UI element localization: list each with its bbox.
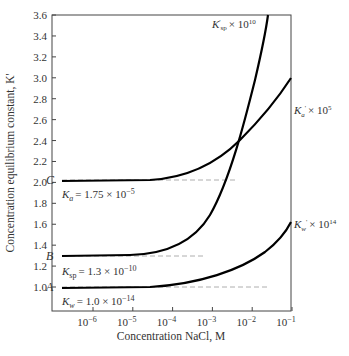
y-tick-label: 2.4	[33, 135, 47, 147]
label-c: C	[46, 173, 55, 187]
ksp-equation: Ksp= 1.3 × 10−10	[61, 264, 136, 280]
y-tick-label: 3.6	[33, 9, 47, 21]
y-tick-label: 3.0	[33, 72, 47, 84]
ka-curve-label: Ka'× 105	[293, 104, 332, 119]
y-tick-label: 2.2	[33, 155, 47, 167]
y-tick-label: 1.2	[33, 260, 47, 272]
x-tick-label: 10−1	[276, 315, 296, 328]
y-tick-label: 3.2	[33, 51, 47, 63]
ka-equation: Ka= 1.75 × 10−5	[61, 187, 135, 203]
x-axis-label: Concentration NaCl, M	[117, 330, 225, 343]
y-tick-label: 3.4	[33, 30, 47, 42]
ka-curve	[62, 78, 291, 181]
label-b: B	[46, 249, 54, 263]
kw-curve-label: Kw'× 1014	[293, 218, 337, 233]
x-tick-label: 10−5	[117, 315, 137, 328]
x-tick-label: 10−4	[157, 315, 177, 328]
y-tick-label: 1.6	[33, 218, 47, 230]
label-a: A	[45, 280, 54, 294]
chart: 1.01.21.41.61.82.02.22.42.62.83.03.23.43…	[0, 0, 349, 356]
y-tick-label: 1.8	[33, 197, 47, 209]
x-tick-label: 10−3	[197, 315, 217, 328]
y-tick-label: 2.8	[33, 93, 47, 105]
y-axis-label: Concentration equilibrium constant, K'	[4, 73, 17, 252]
y-tick-label: 2.6	[33, 114, 47, 126]
kw-equation: Kw= 1.0 × 10−14	[61, 294, 135, 310]
x-tick-label: 10−6	[77, 315, 97, 328]
x-tick-label: 10−2	[236, 315, 256, 328]
ksp-curve	[62, 15, 268, 256]
x-axis-ticks: 10−610−510−410−310−210−1	[77, 307, 296, 328]
ksp-curve-label: K'sp× 1010	[211, 18, 256, 32]
